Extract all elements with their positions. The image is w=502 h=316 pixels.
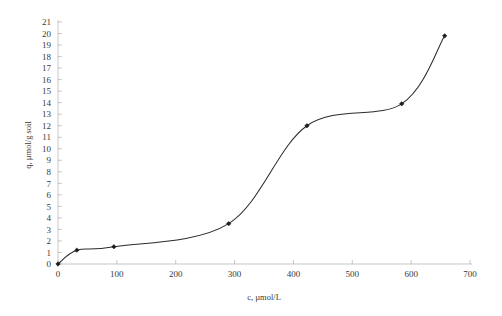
plot-background — [0, 0, 502, 316]
y-tick-label: 1 — [47, 248, 52, 258]
y-tick-label: 13 — [42, 109, 52, 119]
x-tick-label: 700 — [463, 269, 477, 279]
y-tick-label: 11 — [42, 132, 51, 142]
sorption-isotherm-chart: 0123456789101112131415161718192021 01002… — [0, 0, 502, 316]
x-tick-label: 300 — [228, 269, 242, 279]
y-tick-label: 9 — [47, 155, 52, 165]
x-tick-label: 200 — [169, 269, 183, 279]
y-tick-label: 4 — [47, 213, 52, 223]
y-tick-label: 19 — [42, 40, 52, 50]
y-tick-label: 14 — [42, 98, 52, 108]
x-tick-label: 100 — [110, 269, 124, 279]
x-tick-label: 500 — [346, 269, 360, 279]
y-tick-label: 8 — [47, 167, 52, 177]
y-tick-label: 2 — [47, 236, 52, 246]
y-tick-label: 3 — [47, 225, 52, 235]
y-tick-label: 10 — [42, 144, 52, 154]
y-tick-label: 12 — [42, 121, 51, 131]
x-tick-label: 400 — [287, 269, 301, 279]
y-tick-label: 21 — [42, 17, 51, 27]
y-tick-label: 6 — [47, 190, 52, 200]
x-tick-label: 600 — [404, 269, 418, 279]
y-tick-label: 0 — [47, 259, 52, 269]
y-axis-title: q, µmol/g soil — [23, 121, 33, 169]
y-tick-label: 15 — [42, 86, 52, 96]
chart-page: 0123456789101112131415161718192021 01002… — [0, 0, 502, 316]
y-tick-label: 16 — [42, 75, 52, 85]
x-axis-title: c, µmol/L — [247, 292, 281, 302]
y-tick-label: 17 — [42, 63, 52, 73]
y-tick-label: 18 — [42, 52, 52, 62]
y-tick-label: 20 — [42, 29, 52, 39]
y-tick-label: 5 — [47, 202, 52, 212]
x-tick-label: 0 — [56, 269, 61, 279]
y-tick-label: 7 — [47, 179, 52, 189]
